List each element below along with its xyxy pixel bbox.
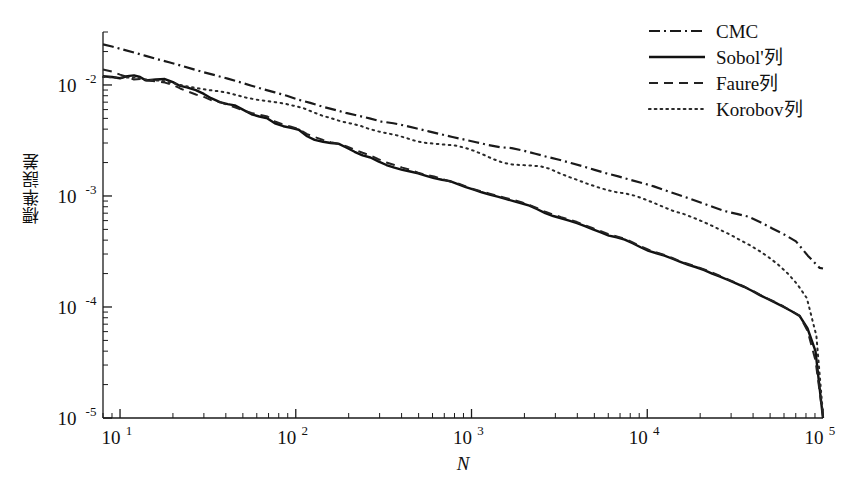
x-tick-label: 105: [805, 423, 836, 448]
series-line-korobov: [103, 77, 823, 414]
legend-label-korobov: Korobov列: [716, 100, 803, 119]
y-tick-label: 10-3: [58, 182, 97, 207]
y-tick-label-base: 10: [58, 297, 77, 318]
x-tick-label-base: 10: [453, 427, 472, 448]
y-tick-label-exp: -4: [86, 293, 97, 308]
x-tick-label: 102: [277, 423, 308, 448]
y-tick-label-exp: -3: [86, 182, 97, 197]
legend-label-cmc: CMC: [716, 22, 758, 41]
y-tick-label-base: 10: [58, 75, 77, 96]
legend-swatch-dashed-icon: [648, 76, 706, 90]
x-tick-label-exp: 1: [126, 423, 133, 438]
x-tick-label-exp: 2: [302, 423, 309, 438]
series-line-sobol: [103, 75, 823, 418]
legend-item-korobov[interactable]: Korobov列: [648, 96, 848, 122]
y-tick-label-base: 10: [58, 186, 77, 207]
x-tick-label: 101: [102, 423, 133, 448]
legend-label-faure: Faure列: [716, 74, 778, 93]
legend-item-sobol[interactable]: Sobol'列: [648, 44, 848, 70]
x-tick-label-base: 10: [805, 427, 824, 448]
y-tick-label-exp: -5: [86, 404, 97, 419]
x-axis-title: N: [456, 453, 471, 474]
y-tick-label-base: 10: [58, 408, 77, 429]
legend: CMC Sobol'列 Faure列 Korobov列: [648, 18, 848, 122]
x-tick-label-exp: 4: [653, 423, 660, 438]
x-tick-label: 104: [629, 423, 660, 448]
legend-label-sobol: Sobol'列: [716, 48, 783, 67]
legend-swatch-dashdot-icon: [648, 24, 706, 38]
legend-swatch-dotted-icon: [648, 102, 706, 116]
x-tick-label-base: 10: [629, 427, 648, 448]
y-axis-title: 標準誤差: [18, 152, 43, 224]
x-tick-label-exp: 3: [477, 423, 484, 438]
legend-item-faure[interactable]: Faure列: [648, 70, 848, 96]
x-tick-label-exp: 5: [829, 423, 836, 438]
y-tick-label: 10-2: [58, 71, 97, 96]
x-tick-label: 103: [453, 423, 484, 448]
y-tick-label: 10-5: [58, 404, 97, 429]
legend-swatch-solid-icon: [648, 50, 706, 64]
y-tick-label: 10-4: [58, 293, 97, 318]
y-tick-label-exp: -2: [86, 71, 97, 86]
x-tick-label-base: 10: [277, 427, 296, 448]
x-tick-label-base: 10: [102, 427, 121, 448]
legend-item-cmc[interactable]: CMC: [648, 18, 848, 44]
chart-figure: 10110210310410510-210-310-410-5N 標準誤差 CM…: [0, 0, 851, 484]
